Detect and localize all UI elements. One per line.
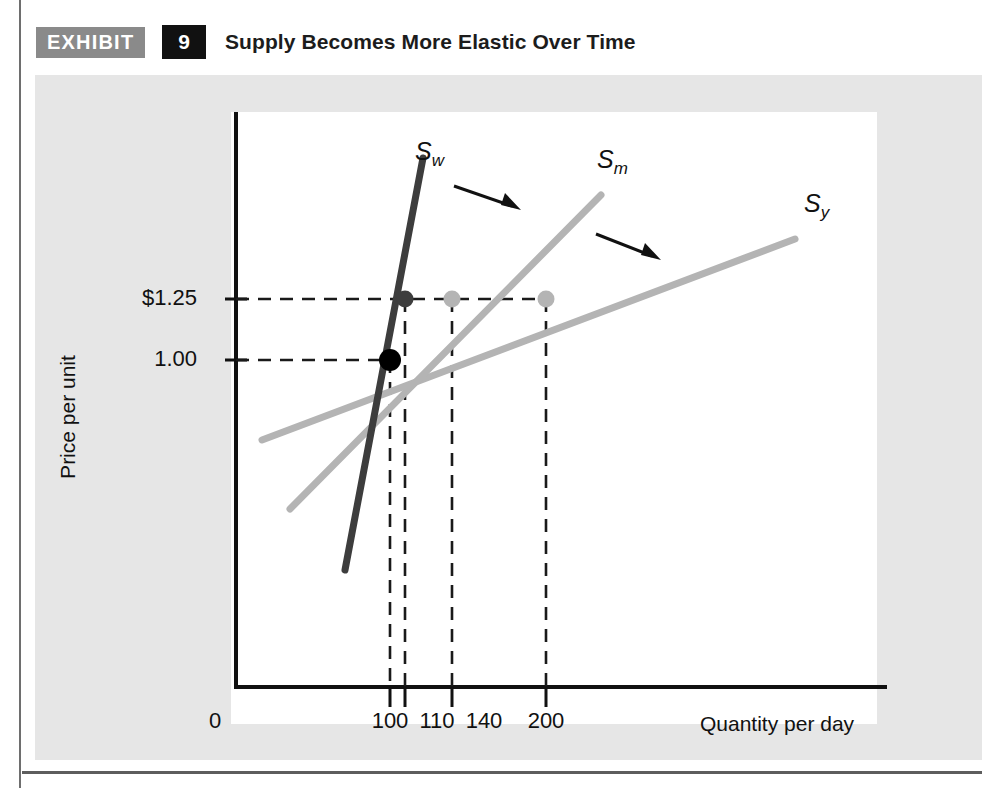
x-tick-label-110: 110	[412, 708, 462, 734]
chart-panel: Price per unit $1.25 1.00 0 100 110 140 …	[35, 75, 982, 760]
page-bottom-rule	[22, 771, 982, 774]
curve-label-sw-base: S	[415, 137, 432, 165]
exhibit-header: EXHIBIT 9 Supply Becomes More Elastic Ov…	[36, 26, 636, 58]
marker-sm-125	[444, 291, 461, 308]
x-axis-label: Quantity per day	[700, 712, 854, 736]
x-tick-label-200: 200	[521, 708, 571, 734]
curve-label-sm-sub: m	[614, 159, 628, 178]
curve-label-sy-sub: y	[821, 203, 830, 222]
curve-label-sy-base: S	[804, 189, 821, 217]
marker-equilibrium-100	[379, 349, 401, 371]
x-tick-label-100: 100	[365, 708, 415, 734]
exhibit-tag-label: EXHIBIT	[36, 27, 145, 58]
x-tick-label-0: 0	[190, 708, 240, 734]
y-axis-label: Price per unit	[56, 332, 80, 502]
x-tick-label-140: 140	[459, 708, 509, 734]
page-title: Supply Becomes More Elastic Over Time	[225, 30, 636, 54]
marker-sw-125	[397, 291, 414, 308]
shift-arrow-sm-to-sy	[596, 234, 661, 260]
marker-sy-125	[538, 291, 555, 308]
curve-label-sm: Sm	[597, 145, 628, 179]
curve-label-sw: Sw	[415, 137, 444, 171]
page-left-rule	[19, 0, 21, 788]
curve-label-sy: Sy	[804, 189, 829, 223]
supply-curve-sm	[290, 195, 601, 509]
y-tick-label-125: $1.25	[97, 285, 197, 311]
curve-label-sm-base: S	[597, 145, 614, 173]
supply-curves-chart	[35, 75, 982, 760]
shift-arrow-sw-to-sm	[454, 186, 521, 210]
y-tick-label-100: 1.00	[97, 346, 197, 372]
exhibit-page: EXHIBIT 9 Supply Becomes More Elastic Ov…	[0, 0, 995, 788]
curve-label-sw-sub: w	[432, 151, 444, 170]
exhibit-number-badge: 9	[162, 25, 206, 59]
